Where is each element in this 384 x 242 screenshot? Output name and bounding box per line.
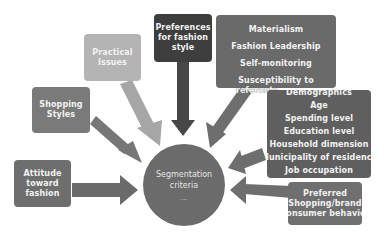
node-line: Shopping/brand [288, 199, 361, 209]
node-line: Demographics [286, 90, 352, 99]
node-line: Spending level [285, 112, 353, 125]
arrow-preferences-icon [171, 62, 195, 136]
arrow-psychographics-icon [206, 88, 252, 148]
arrow-preferred-icon [230, 176, 292, 204]
node-preferences-fashion-style: Preferences for fashion style [154, 14, 212, 62]
node-practical-issues: Practical Issues [84, 34, 141, 81]
node-line: Municipality of residence [267, 151, 371, 164]
center-label-line: Segmentation [156, 169, 212, 180]
node-line: Fashion Leadership [231, 38, 320, 55]
arrow-attitude-icon [72, 175, 138, 205]
node-line: Shopping [39, 100, 82, 110]
center-segmentation-criteria: Segmentation criteria ... [143, 144, 225, 226]
node-attitude-toward-fashion: Attitude toward fashion [14, 160, 71, 207]
node-line: Household dimension [269, 138, 368, 151]
node-line: Job occupation [285, 164, 353, 177]
node-line: toward [26, 179, 58, 189]
arrow-shopping-styles-icon [90, 116, 142, 163]
node-demographics: Demographics Age Spending level Educatio… [267, 90, 371, 178]
node-shopping-styles: Shopping Styles [32, 87, 90, 133]
node-line: Self-monitoring [240, 55, 312, 72]
node-line: Education level [284, 125, 355, 138]
arrow-demographics-icon [228, 148, 266, 174]
center-footer: ... [181, 195, 188, 202]
node-preferred-shopping-brand: Preferred Shopping/brand Consumer behavi… [288, 182, 362, 225]
node-line: Materialism [249, 21, 303, 38]
segmentation-diagram: Attitude toward fashion Shopping Styles … [0, 0, 384, 242]
node-line: style [172, 43, 194, 53]
node-line: for fashion [158, 33, 208, 43]
center-label-line: criteria [170, 180, 198, 191]
node-line: Styles [47, 110, 75, 120]
node-line: Preferences [155, 23, 210, 33]
node-line: Issues [98, 58, 127, 68]
node-line: Practical [92, 48, 132, 58]
node-line: Preferred [303, 189, 347, 199]
node-psychographics: Materialism Fashion Leadership Self-moni… [216, 15, 336, 88]
arrow-practical-issues-icon [120, 80, 162, 146]
node-line: Attitude [23, 169, 61, 179]
node-line: fashion [26, 189, 60, 199]
node-line: Age [310, 99, 328, 112]
node-line: Consumer behavior [288, 209, 362, 219]
